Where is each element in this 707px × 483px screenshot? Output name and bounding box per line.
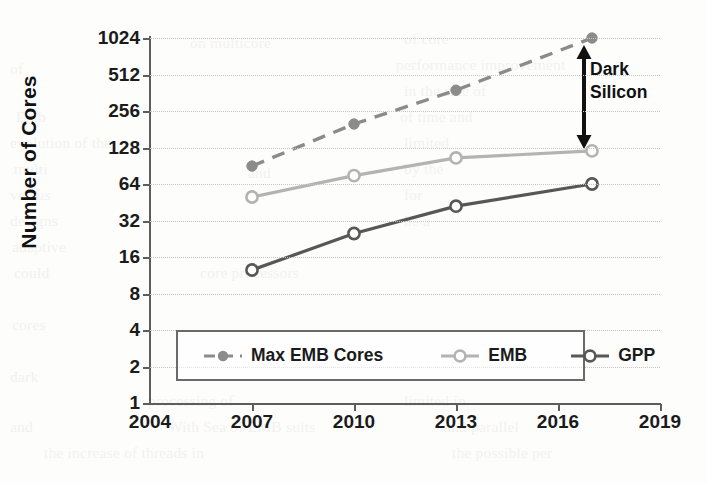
x-axis-tick <box>558 404 560 411</box>
x-axis-tick <box>456 404 458 411</box>
y-axis-tick <box>143 148 150 150</box>
gridline <box>150 38 660 39</box>
chart-legend: Max EMB CoresEMBGPP <box>176 330 585 381</box>
x-axis-tick <box>660 404 662 411</box>
legend-label: Max EMB Cores <box>251 345 383 366</box>
series-marker <box>450 201 461 212</box>
y-axis-tick <box>143 111 150 113</box>
y-axis-tick <box>143 257 150 259</box>
y-axis-tick <box>143 75 150 77</box>
gridline <box>150 294 660 295</box>
gridline <box>150 257 660 258</box>
y-axis-tick-label: 4 <box>20 319 140 341</box>
x-axis-tick-label: 2010 <box>333 411 375 433</box>
series-marker <box>450 152 461 163</box>
x-axis-tick-label: 2019 <box>639 411 681 433</box>
chart-figure: 12481632641282565121024 Number of Cores … <box>0 0 707 483</box>
legend-key-solid <box>439 347 481 365</box>
y-axis-title: Number of Cores <box>17 37 41 287</box>
annotation-line: Dark <box>590 58 647 81</box>
gridline <box>150 148 660 149</box>
gridline <box>150 184 660 185</box>
y-axis-tick <box>143 221 150 223</box>
legend-item[interactable]: GPP <box>569 345 655 366</box>
legend-item[interactable]: Max EMB Cores <box>202 345 383 366</box>
y-axis-tick <box>143 403 150 405</box>
x-axis-tick-label: 2007 <box>231 411 273 433</box>
gridline <box>150 75 660 76</box>
y-axis-tick-label: 1 <box>20 392 140 414</box>
x-axis-tick <box>252 404 254 411</box>
x-axis-line <box>149 403 661 405</box>
y-axis-tick <box>143 367 150 369</box>
gridline <box>150 221 660 222</box>
x-axis-tick-label: 2004 <box>129 411 171 433</box>
legend-item[interactable]: EMB <box>439 345 527 366</box>
y-axis-tick <box>143 38 150 40</box>
dark-silicon-annotation-label: DarkSilicon <box>590 58 647 104</box>
x-axis-tick <box>354 404 356 411</box>
legend-key-dashed <box>202 347 244 365</box>
annotation-line: Silicon <box>590 81 647 104</box>
series-marker <box>451 85 461 95</box>
legend-label: EMB <box>488 345 527 366</box>
legend-label: GPP <box>618 345 655 366</box>
series-marker <box>349 119 359 129</box>
series-marker <box>247 161 257 171</box>
y-axis-tick <box>143 330 150 332</box>
gridline <box>150 111 660 112</box>
y-axis-tick <box>143 294 150 296</box>
legend-key-solid <box>569 347 611 365</box>
series-line <box>252 151 592 197</box>
series-marker <box>348 170 359 181</box>
series-marker <box>246 264 257 275</box>
series-marker <box>348 228 359 239</box>
y-axis-tick <box>143 184 150 186</box>
x-axis-tick-label: 2016 <box>537 411 579 433</box>
x-axis-tick-label: 2013 <box>435 411 477 433</box>
y-axis-tick-label: 2 <box>20 356 140 378</box>
series-marker <box>246 191 257 202</box>
